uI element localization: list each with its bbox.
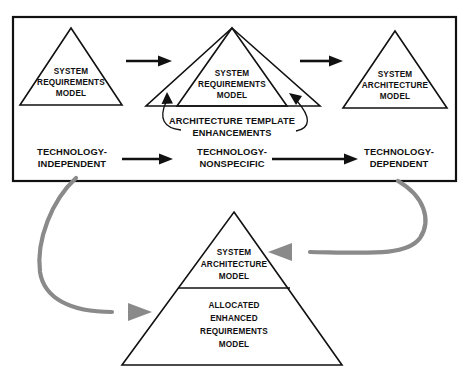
pyramid-label-line-2: REQUIREMENTS (37, 78, 105, 87)
bottom-pyramid-bottom-label-line-2: ENHANCED (210, 314, 258, 323)
bottom-pyramid-bottom-label-line-1: ALLOCATED (208, 301, 259, 310)
pyramid-label-line-3: MODEL (56, 89, 86, 98)
feedback-arrow-left (39, 178, 152, 321)
arrow-head-icon (329, 56, 343, 67)
stage-label-line-1: TECHNOLOGY- (197, 146, 267, 157)
pyramid-label-line-2: REQUIREMENTS (198, 80, 266, 89)
pyramid-label-line-2: ARCHITECTURE (362, 81, 429, 90)
flow-arrow-2-to-3 (300, 56, 343, 67)
stage-label-line-2: NONSPECIFIC (199, 158, 264, 169)
feedback-arrow-left-head-icon (128, 303, 152, 321)
feedback-arrow-right-path (310, 181, 425, 253)
bottom-pyramid-bottom-label-line-4: MODEL (219, 340, 249, 349)
bottom-pyramid-bottom-label-line-3: REQUIREMENTS (200, 327, 268, 336)
pyramid-allocated-enhanced-requirements: SYSTEM ARCHITECTURE MODEL ALLOCATED ENHA… (122, 212, 342, 365)
stage-technology-nonspecific: TECHNOLOGY- NONSPECIFIC (197, 146, 267, 169)
pyramid-system-architecture-model: SYSTEM ARCHITECTURE MODEL (343, 31, 447, 108)
enhancement-caption-line-2: ENHANCEMENTS (193, 128, 272, 138)
pyramid-label-line-3: MODEL (217, 91, 247, 100)
feedback-arrow-left-path (39, 178, 112, 312)
pyramid-system-requirements-model-initial: SYSTEM REQUIREMENTS MODEL (20, 28, 122, 105)
architecture-flow-diagram: SYSTEM REQUIREMENTS MODEL SYSTEM REQUIRE… (0, 0, 467, 380)
stage-arrow-1-to-2 (122, 154, 173, 165)
pyramid-label-line-1: SYSTEM (215, 69, 250, 78)
arrow-head-icon (344, 154, 358, 165)
arrow-head-icon (159, 154, 173, 165)
feedback-arrow-right-head-icon (268, 243, 292, 261)
bottom-pyramid-top-label-line-1: SYSTEM (217, 248, 252, 257)
stage-label-line-1: TECHNOLOGY- (37, 146, 107, 157)
stage-label-line-1: TECHNOLOGY- (364, 146, 434, 157)
flow-arrow-1-to-2 (126, 56, 172, 67)
pyramid-label-line-3: MODEL (380, 92, 410, 101)
enhancement-caption-line-1: ARCHITECTURE TEMPLATE (169, 116, 295, 126)
diagram-root: SYSTEM REQUIREMENTS MODEL SYSTEM REQUIRE… (0, 0, 467, 380)
pyramid-label-line-1: SYSTEM (378, 70, 413, 79)
stage-label-line-2: DEPENDENT (370, 158, 429, 169)
stage-technology-dependent: TECHNOLOGY- DEPENDENT (364, 146, 434, 169)
stage-label-line-2: INDEPENDENT (38, 158, 106, 169)
stage-arrow-2-to-3 (272, 154, 358, 165)
pyramid-label-line-1: SYSTEM (54, 67, 89, 76)
arrow-head-icon (158, 56, 172, 67)
stage-technology-independent: TECHNOLOGY- INDEPENDENT (37, 146, 107, 169)
bottom-pyramid-top-label-line-2: ARCHITECTURE (201, 260, 268, 269)
bottom-pyramid-top-label-line-3: MODEL (219, 272, 249, 281)
feedback-arrow-right (268, 181, 425, 261)
